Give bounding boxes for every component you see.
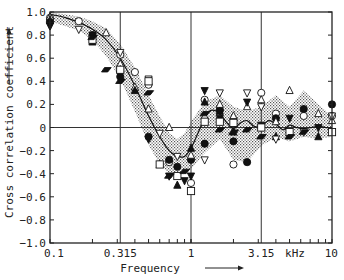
- x-tick-label: 0.315: [104, 247, 137, 260]
- triangle-down-filled-marker: [201, 88, 208, 95]
- circle-open-marker: [300, 112, 307, 119]
- x-axis-unit: kHz: [285, 247, 305, 260]
- triangle-down-open-marker: [201, 157, 208, 164]
- triangle-down-open-marker: [216, 90, 223, 97]
- circle-open-marker: [230, 161, 237, 168]
- x-tick-label: 3.15: [248, 247, 275, 260]
- square-open-marker: [258, 124, 265, 131]
- circle-open-marker: [75, 18, 82, 25]
- y-tick-label: −0.4: [20, 168, 47, 181]
- triangle-up-open-marker: [286, 86, 293, 93]
- circle-filled-marker: [300, 105, 307, 112]
- square-open-marker: [187, 187, 194, 194]
- y-tick-label: 0.4: [26, 75, 46, 88]
- triangle-down-filled-marker: [187, 173, 194, 180]
- x-tick-label: 1: [188, 247, 195, 260]
- square-open-marker: [145, 78, 152, 85]
- triangle-up-open-marker: [166, 123, 173, 130]
- y-tick-label: 1.0: [26, 6, 46, 19]
- y-tick-label: 0: [39, 122, 46, 135]
- y-tick-label: −0.8: [20, 214, 47, 227]
- square-open-marker: [216, 118, 223, 125]
- grid-lines: [50, 12, 332, 243]
- circle-filled-marker: [174, 163, 181, 170]
- square-open-marker: [230, 119, 237, 126]
- y-tick-label: 0.8: [26, 29, 46, 42]
- square-open-marker: [156, 161, 163, 168]
- y-tick-label: −0.2: [20, 145, 47, 158]
- circle-filled-marker: [201, 140, 208, 147]
- square-open-marker: [117, 66, 124, 73]
- x-axis-title: Frequency: [120, 262, 180, 275]
- triangle-up-filled-marker: [174, 181, 181, 188]
- cross-correlation-chart: 1.00.80.60.40.20−0.2−0.4−0.6−0.8−1.0 0.1…: [0, 0, 344, 280]
- circle-filled-marker: [230, 138, 237, 145]
- x-tick-label: 0.1: [44, 247, 64, 260]
- triangle-up-open-marker: [258, 96, 265, 103]
- triangle-down-filled-marker: [244, 99, 251, 106]
- y-tick-label: 0.6: [26, 52, 46, 65]
- circle-open-marker: [131, 68, 138, 75]
- y-tick-label: −1.0: [20, 237, 47, 250]
- y-tick-label: 0.2: [26, 98, 46, 111]
- circle-filled-marker: [244, 159, 251, 166]
- circle-filled-marker: [166, 156, 173, 163]
- square-open-marker: [201, 118, 208, 125]
- y-tick-label: −0.6: [20, 191, 47, 204]
- parallelogram-filled-marker: [102, 68, 112, 72]
- triangle-down-open-marker: [244, 90, 251, 97]
- x-tick-label: 10: [325, 247, 338, 260]
- x-axis-arrow: [205, 266, 244, 271]
